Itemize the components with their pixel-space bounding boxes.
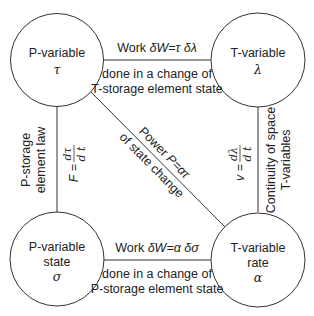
- node-top-left-circle: [11, 14, 104, 107]
- node-bottom-left-sublabel: state: [43, 255, 70, 269]
- edge-right-formula-num: dλ: [227, 147, 240, 161]
- node-top-left-label: P-variable: [29, 46, 85, 60]
- node-top-left-symbol: τ: [54, 62, 62, 77]
- energy-variable-diagram: P-variable τ T-variable λ P-variable sta…: [0, 0, 314, 316]
- node-bottom-right-label: T-variable: [231, 241, 286, 255]
- node-top-right-symbol: λ: [253, 62, 262, 77]
- node-top-right-label: T-variable: [231, 46, 286, 60]
- edge-left-law-line1: P-storage: [19, 133, 33, 187]
- edge-left-formula: F = dτ d t: [61, 145, 88, 182]
- edge-left-law-line2: element law: [34, 126, 48, 194]
- edge-left-formula-lhs: F =: [67, 164, 81, 182]
- edge-bottom-work-label: Work δW=α δσ: [115, 241, 199, 255]
- edge-right-text-line2: T-variables: [279, 129, 293, 190]
- edge-diagonal-line: [91, 92, 225, 227]
- edge-left-formula-den: d t: [75, 146, 88, 162]
- diagram-canvas: P-variable τ T-variable λ P-variable sta…: [0, 0, 314, 316]
- node-bottom-right-symbol: α: [254, 270, 263, 285]
- edge-bottom-desc-line2: P-storage element state: [91, 282, 224, 296]
- edge-right-formula-den: d t: [241, 146, 254, 162]
- node-bottom-left-label: P-variable: [29, 240, 85, 254]
- edge-right-formula-lhs: v =: [233, 164, 247, 181]
- edge-right-text-line1: Continuity of space: [264, 107, 278, 213]
- node-bottom-right-sublabel: rate: [247, 256, 269, 270]
- edge-top-desc-line2: T-storage element state: [91, 82, 222, 96]
- edge-right-continuity-text: Continuity of space T-variables: [264, 107, 293, 213]
- edge-left-law-text: P-storage element law: [19, 126, 48, 194]
- node-bottom-left-symbol: σ: [53, 269, 62, 284]
- edge-bottom-desc-line1: done in a change of: [102, 267, 212, 281]
- node-top-right-circle: [211, 13, 305, 107]
- edge-top-desc-line1: done in a change of: [102, 67, 212, 81]
- edge-top-work-label: Work δW=τ δλ: [117, 41, 197, 55]
- edge-left-formula-num: dτ: [61, 147, 74, 161]
- edge-right-formula: v = dλ d t: [227, 145, 254, 181]
